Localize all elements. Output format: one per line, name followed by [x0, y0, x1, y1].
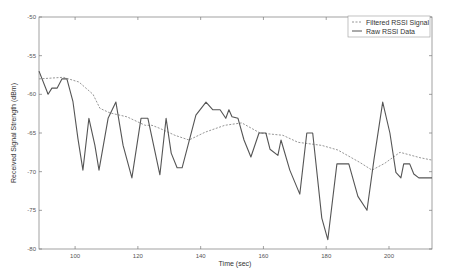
- plot-area: [39, 17, 432, 249]
- legend-label-filtered: Filtered RSSI Signal: [366, 19, 429, 27]
- x-tick-label: 180: [321, 253, 332, 259]
- y-tick-label: -65: [27, 130, 36, 136]
- y-tick-label: -80: [27, 246, 36, 252]
- x-tick-label: 120: [133, 253, 144, 259]
- legend: Filtered RSSI Signal Raw RSSI Data: [348, 16, 430, 37]
- x-tick-label: 160: [258, 253, 269, 259]
- legend-label-raw: Raw RSSI Data: [366, 28, 415, 35]
- y-tick-label: -70: [27, 169, 36, 175]
- plot-border: [39, 17, 432, 249]
- y-tick-label: -50: [27, 14, 36, 20]
- x-axis-label: Time (sec): [219, 260, 252, 268]
- x-tick-label: 200: [384, 253, 395, 259]
- x-tick-label: 140: [196, 253, 207, 259]
- y-tick-label: -55: [27, 53, 36, 59]
- y-tick-label: -75: [27, 207, 36, 213]
- rssi-line-chart: -50-55-60-65-70-75-80 100120140160180200…: [0, 0, 450, 278]
- x-tick-label: 100: [70, 253, 81, 259]
- y-tick-label: -60: [27, 91, 36, 97]
- y-axis-label: Received Signal Strength (dBm): [10, 83, 18, 183]
